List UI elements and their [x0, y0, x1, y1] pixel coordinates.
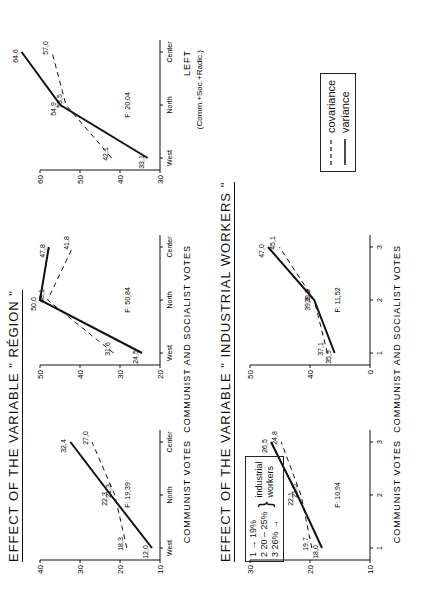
industrial-key: 1 → 19% 2 20 – 25% 3 26% → } industrial … — [245, 456, 284, 562]
legend: covariance variance — [320, 73, 356, 172]
data-label: 42,1 — [102, 147, 109, 161]
data-label: 39,3 — [304, 289, 311, 303]
y-tick-label: 30 — [156, 174, 165, 183]
solid-line-icon — [342, 139, 348, 165]
chart-title: COMMUNIST AND SOCIALIST VOTES — [182, 245, 192, 433]
data-label: 33,1 — [138, 155, 145, 169]
y-tick-label: 20 — [116, 564, 125, 573]
y-tick-label: 40 — [116, 174, 125, 183]
x-tick-label: Center — [166, 236, 173, 258]
chart-region-left: 30405060WestNorthCenter33,154,964,642,15… — [30, 22, 199, 192]
region-section-title: EFFECT OF THE VARIABLE " RÉGION " — [6, 290, 23, 562]
industrial-key-row: 1 → 19% — [248, 511, 259, 557]
data-label: 53,5 — [56, 94, 63, 108]
y-tick-label: 50 — [246, 369, 255, 378]
data-label: 47,8 — [39, 244, 46, 258]
x-tick-label: North — [166, 96, 173, 113]
data-label: 24,8 — [271, 431, 278, 445]
y-tick-label: 40 — [36, 564, 45, 573]
x-tick-label: Center — [166, 431, 173, 453]
chart-svg: 20304050WestNorthCenter24,550,047,831,64… — [30, 217, 195, 387]
data-label: 32,4 — [60, 439, 67, 453]
data-label: 18,0 — [312, 545, 319, 559]
data-label: 21,3 — [105, 484, 112, 498]
data-label: 35,9 — [325, 350, 332, 364]
data-label: 31,6 — [104, 342, 111, 356]
data-label: 41,8 — [63, 236, 70, 250]
x-tick-label: 3 — [376, 245, 383, 249]
data-label: 24,5 — [132, 350, 139, 364]
chart-region-communist: 10203040WestNorthCenter12,022,332,418,32… — [30, 412, 199, 582]
data-label: 45,1 — [269, 236, 276, 250]
brace-icon: } — [250, 501, 280, 507]
chart-svg: 30405060WestNorthCenter33,154,964,642,15… — [30, 22, 195, 192]
y-tick-label: 10 — [366, 564, 375, 573]
f-statistic: F: 19,39 — [124, 482, 131, 508]
industrial-section-title: EFFECT OF THE VARIABLE " INDUSTRIAL WORK… — [218, 182, 235, 562]
y-tick-label: 40 — [76, 369, 85, 378]
data-label: 12,0 — [142, 545, 149, 559]
y-tick-label: 10 — [156, 564, 165, 573]
series-variance — [268, 247, 335, 353]
x-tick-label: North — [166, 291, 173, 308]
x-tick-label: 1 — [376, 546, 383, 550]
y-tick-label: 30 — [246, 564, 255, 573]
data-label: 57,0 — [42, 41, 49, 55]
dashed-line-icon — [328, 139, 334, 165]
chart-title: COMMUNIST AND SOCIALIST VOTES — [392, 245, 402, 433]
chart-subtitle: (Comm.+Soc.+Radic.) — [195, 50, 204, 129]
y-tick-label: 40 — [306, 369, 315, 378]
chart-region-comm-soc: 20304050WestNorthCenter24,550,047,831,64… — [30, 217, 199, 387]
y-tick-label: 60 — [36, 174, 45, 183]
x-tick-label: 3 — [376, 440, 383, 444]
chart-title: COMMUNIST VOTES — [392, 440, 402, 543]
rotated-page: EFFECT OF THE VARIABLE " RÉGION " EFFECT… — [0, 0, 430, 602]
chart-svg: 10203040WestNorthCenter12,022,332,418,32… — [30, 412, 195, 582]
industrial-key-row: 3 26% → — [270, 511, 281, 557]
x-tick-label: West — [166, 540, 173, 556]
y-tick-label: 20 — [306, 564, 315, 573]
x-tick-label: 2 — [376, 493, 383, 497]
y-tick-label: 50 — [36, 369, 45, 378]
f-statistic: F: 50,84 — [124, 287, 131, 313]
y-tick-label: 30 — [116, 369, 125, 378]
y-tick-label: 0 — [366, 369, 375, 374]
f-statistic: F: 10,94 — [334, 482, 341, 508]
x-tick-label: Center — [166, 41, 173, 63]
data-label: 26,5 — [261, 439, 268, 453]
data-label: 21,5 — [291, 484, 298, 498]
data-label: 37,1 — [317, 342, 324, 356]
chart-title: LEFT — [182, 50, 192, 76]
y-tick-label: 50 — [76, 174, 85, 183]
legend-item-variance: variance — [338, 80, 352, 165]
data-label: 18,3 — [117, 537, 124, 551]
data-label: 19,7 — [302, 537, 309, 551]
data-label: 27,0 — [82, 431, 89, 445]
x-tick-label: 2 — [376, 298, 383, 302]
data-label: 48,1 — [38, 289, 45, 303]
data-label: 50,0 — [30, 297, 37, 311]
x-tick-label: West — [166, 150, 173, 166]
f-statistic: F: 20,04 — [124, 92, 131, 118]
f-statistic: F: 11,52 — [334, 287, 341, 312]
chart-title: COMMUNIST VOTES — [182, 440, 192, 543]
data-label: 64,6 — [12, 49, 19, 63]
data-label: 47,0 — [258, 244, 265, 258]
chart-industrial-comm-soc: 0405012335,939,347,037,139,345,1F: 11,52… — [240, 217, 409, 387]
industrial-key-row: 2 20 – 25% — [259, 511, 270, 557]
y-tick-label: 30 — [76, 564, 85, 573]
industrial-key-label: workers — [265, 461, 276, 497]
chart-svg: 0405012335,939,347,037,139,345,1F: 11,52… — [240, 217, 405, 387]
x-tick-label: 1 — [376, 351, 383, 355]
y-tick-label: 20 — [156, 369, 165, 378]
x-tick-label: North — [166, 486, 173, 503]
legend-item-covariance: covariance — [324, 80, 338, 165]
x-tick-label: West — [166, 345, 173, 361]
series-covariance — [48, 247, 114, 353]
industrial-key-label: industrial — [254, 461, 265, 497]
